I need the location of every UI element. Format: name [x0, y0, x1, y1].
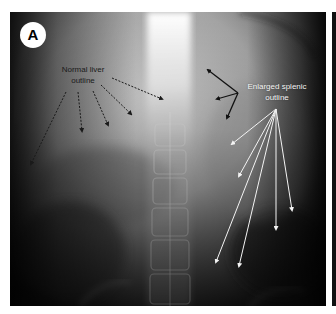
- spleen-label-line1: Enlarged splenic: [247, 81, 306, 92]
- liver-label: Normal liver outline: [62, 64, 105, 86]
- xray-figure-panel: A Normal liver outline Enlarged splenic …: [10, 12, 326, 306]
- adjacent-panel-edge: [332, 12, 336, 306]
- panel-label-badge: A: [20, 22, 46, 48]
- abdominal-xray-image: [10, 12, 326, 306]
- spleen-label-line2: outline: [247, 92, 306, 103]
- spleen-label: Enlarged splenic outline: [247, 81, 306, 103]
- liver-label-line2: outline: [62, 75, 105, 86]
- liver-label-line1: Normal liver: [62, 64, 105, 75]
